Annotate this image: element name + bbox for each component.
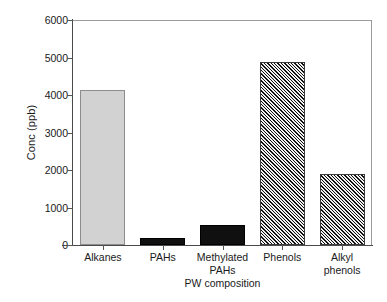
x-tick-label: Phenols	[263, 251, 301, 264]
y-tick-mark	[67, 20, 73, 21]
y-tick-mark	[67, 95, 73, 96]
y-tick-label: 4000	[34, 90, 68, 101]
y-tick-mark	[67, 133, 73, 134]
bars-group	[73, 20, 372, 245]
x-tick-mark	[342, 245, 343, 250]
bar	[260, 62, 305, 245]
y-tick-label: 3000	[34, 127, 68, 138]
bar	[80, 90, 125, 245]
y-tick-label: 1000	[34, 202, 68, 213]
y-tick-label: 5000	[34, 52, 68, 63]
bar	[140, 238, 185, 245]
y-tick-label: 2000	[34, 165, 68, 176]
y-tick-mark	[67, 208, 73, 209]
bar-chart-figure: Conc (ppb) 0100020003000400050006000 Alk…	[0, 0, 387, 302]
bar	[200, 225, 245, 245]
x-tick-mark	[282, 245, 283, 250]
x-tick-mark	[103, 245, 104, 250]
x-tick-mark	[163, 245, 164, 250]
y-tick-mark	[67, 245, 73, 246]
x-tick-label: Alkanes	[84, 251, 121, 264]
y-tick-label: 6000	[34, 15, 68, 26]
x-axis-title: PW composition	[73, 277, 372, 290]
x-tick-label: PAHs	[150, 251, 176, 264]
x-tick-mark	[223, 245, 224, 250]
x-tick-label: Alkyl phenols	[324, 251, 361, 276]
y-tick-mark	[67, 170, 73, 171]
bar	[320, 174, 365, 245]
y-axis-tick-labels: 0100020003000400050006000	[34, 20, 68, 245]
x-tick-label: Methylated PAHs	[197, 251, 248, 276]
x-axis-line	[62, 245, 373, 246]
y-tick-mark	[67, 58, 73, 59]
